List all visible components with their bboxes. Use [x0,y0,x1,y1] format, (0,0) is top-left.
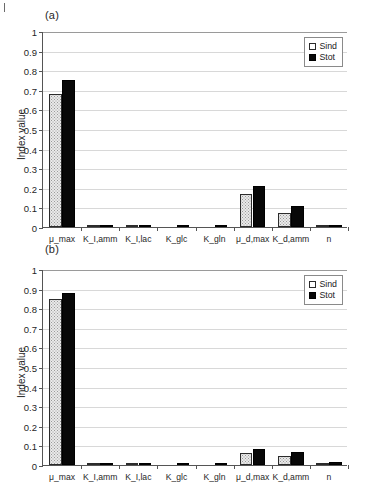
y-tick-label: 0.2 [7,183,37,194]
bar-sind-2 [126,463,139,465]
bar-stot-5 [253,449,266,465]
white-square-icon [309,43,316,50]
y-tick-label: 0.3 [7,164,37,175]
y-tick-label: 1 [7,27,37,38]
y-tick-label: 0 [7,461,37,472]
bar-stot-3 [177,225,190,227]
y-tick-label: 0.9 [7,46,37,57]
x-tick-mark [196,465,197,469]
bar-sind-7 [316,225,329,227]
black-square-icon [309,292,316,299]
x-tick-mark [348,227,349,231]
y-tick-mark [39,228,43,229]
y-tick-mark [39,466,43,467]
y-tick-label: 0.7 [7,85,37,96]
y-tick-label: 1 [7,265,37,276]
x-tick-label: K_I,amm [83,472,117,482]
x-tick-label: K_I,lac [125,472,151,482]
x-tick-mark [348,465,349,469]
x-tick-label: K_glc [166,472,188,482]
y-tick-label: 0 [7,223,37,234]
bar-sind-1 [87,463,100,465]
black-square-icon [309,54,316,61]
y-tick-label: 0.6 [7,343,37,354]
y-tick-label: 0.8 [7,66,37,77]
x-tick-mark [310,227,311,231]
y-tick-label: 0.9 [7,284,37,295]
x-tick-mark [157,465,158,469]
bar-sind-5 [240,453,253,465]
bar-sind-6 [278,213,291,227]
bar-sind-2 [126,225,139,227]
legend-label-stot-b: Stot [319,290,335,301]
x-tick-mark [81,465,82,469]
x-tick-mark [234,227,235,231]
bar-stot-6 [291,206,304,227]
legend-item-stot-a: Stot [309,52,337,63]
bar-sind-7 [316,463,329,465]
legend-label-sind-b: Sind [319,279,337,290]
bar-stot-1 [100,463,113,465]
bar-stot-2 [139,463,152,465]
x-tick-label: μ_max [49,472,75,482]
bar-sind-0 [49,94,62,227]
chart-panel-a: (a) Index value 00.10.20.30.40.50.60.70.… [0,0,365,238]
bar-stot-6 [291,452,304,465]
bar-stot-3 [177,463,190,465]
y-tick-label: 0.8 [7,304,37,315]
x-tick-label: μ_d,max [236,472,269,482]
y-tick-label: 0.4 [7,382,37,393]
x-tick-mark [119,465,120,469]
bar-stot-7 [329,225,342,227]
bar-stot-2 [139,225,152,227]
bar-sind-5 [240,194,253,227]
bar-stot-4 [215,463,228,465]
x-tick-mark [81,227,82,231]
bar-stot-4 [215,225,228,227]
y-tick-label: 0.5 [7,363,37,374]
panel-a-label: (a) [45,9,59,21]
legend-b: Sind Stot [304,275,343,305]
x-tick-mark [157,227,158,231]
x-tick-mark [310,465,311,469]
y-tick-label: 0.7 [7,323,37,334]
bars-layer-b [43,270,347,465]
x-tick-mark [272,227,273,231]
legend-label-stot-a: Stot [319,52,335,63]
bar-stot-1 [100,225,113,227]
bar-stot-0 [62,293,75,465]
x-tick-label: K_gln [204,472,226,482]
y-tick-label: 0.1 [7,441,37,452]
legend-item-sind-b: Sind [309,279,337,290]
x-tick-label: K_d,amm [272,472,309,482]
x-tick-mark [234,465,235,469]
x-tick-label: n [327,472,332,482]
bar-stot-0 [62,80,75,227]
legend-item-stot-b: Stot [309,290,337,301]
panel-b-label: (b) [45,243,59,255]
y-tick-label: 0.3 [7,402,37,413]
y-tick-label: 0.1 [7,203,37,214]
legend-item-sind-a: Sind [309,41,337,52]
plot-area-a: 00.10.20.30.40.50.60.70.80.91 μ_maxK_I,a… [42,32,347,228]
chart-panel-b: (b) Index value 00.10.20.30.40.50.60.70.… [0,238,365,476]
x-tick-mark [196,227,197,231]
y-tick-label: 0.5 [7,125,37,136]
x-tick-mark [119,227,120,231]
white-square-icon [309,281,316,288]
y-tick-label: 0.6 [7,105,37,116]
bar-sind-0 [49,299,62,465]
bar-stot-7 [329,462,342,465]
y-tick-label: 0.2 [7,421,37,432]
bars-layer-a [43,32,347,227]
legend-label-sind-a: Sind [319,41,337,52]
bar-stot-5 [253,186,266,227]
bar-sind-1 [87,225,100,227]
x-tick-mark [272,465,273,469]
plot-area-b: 00.10.20.30.40.50.60.70.80.91 μ_maxK_I,a… [42,270,347,466]
legend-a: Sind Stot [304,37,343,67]
y-tick-label: 0.4 [7,144,37,155]
bar-sind-6 [278,456,291,465]
